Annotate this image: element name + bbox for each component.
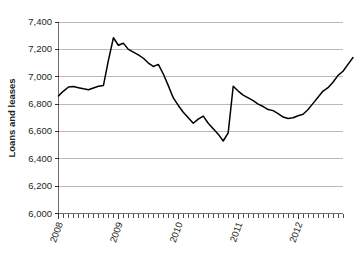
y-tick-label: 6,400 [28, 153, 52, 164]
y-tick-label: 6,600 [28, 125, 52, 136]
y-tick-label: 6,200 [28, 180, 52, 191]
y-tick-label: 7,200 [28, 43, 52, 54]
y-tick-label: 7,400 [28, 16, 52, 27]
y-tick-label: 6,800 [28, 98, 52, 109]
y-axis-title: Loans and leases [6, 78, 17, 157]
y-tick-label: 7,000 [28, 71, 52, 82]
chart-container: 7,4007,2007,0006,8006,6006,4006,2006,000… [0, 0, 356, 264]
y-axis-title-group: Loans and leases [6, 78, 17, 157]
line-chart: 7,4007,2007,0006,8006,6006,4006,2006,000… [0, 0, 356, 264]
y-tick-label: 6,000 [28, 208, 52, 219]
